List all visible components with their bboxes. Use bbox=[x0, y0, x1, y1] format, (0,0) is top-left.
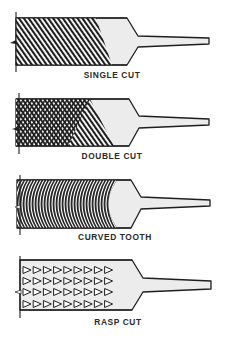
label-curved-tooth: CURVED TOOTH bbox=[78, 232, 152, 242]
label-single-cut: SINGLE CUT bbox=[84, 70, 141, 80]
break-mark-icon bbox=[15, 290, 21, 294]
label-rasp-cut: RASP CUT bbox=[94, 317, 142, 327]
file-rasp-cut: RASP CUT bbox=[15, 256, 211, 327]
break-mark-icon bbox=[10, 40, 16, 44]
file-double-cut: DOUBLE CUT bbox=[12, 93, 209, 161]
label-double-cut: DOUBLE CUT bbox=[82, 151, 143, 161]
file-single-cut: SINGLE CUT bbox=[10, 12, 209, 80]
file-cuts-diagram: SINGLE CUT DOUBLE CUT CURVED TOOTH bbox=[0, 0, 225, 339]
curved-tooth-teeth bbox=[13, 180, 119, 228]
file-curved-tooth: CURVED TOOTH bbox=[13, 175, 210, 242]
